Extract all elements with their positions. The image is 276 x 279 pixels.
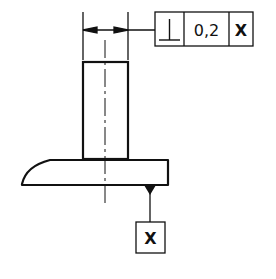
technical-drawing: X 0,2 X bbox=[0, 0, 276, 279]
datum-label: X bbox=[144, 229, 157, 248]
perpendicularity-icon bbox=[159, 19, 180, 40]
datum-reference: X bbox=[235, 21, 248, 40]
datum-box: X bbox=[136, 222, 165, 253]
tolerance-value: 0,2 bbox=[194, 21, 219, 40]
base bbox=[22, 160, 168, 185]
dimension-line bbox=[83, 27, 155, 33]
feature-control-frame: 0,2 X bbox=[155, 12, 253, 46]
